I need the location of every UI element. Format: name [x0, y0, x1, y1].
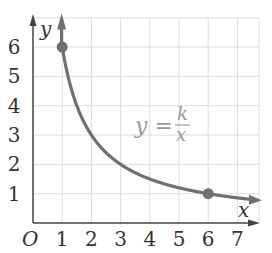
x-tick-label: 7	[231, 227, 244, 251]
x-axis-arrow-icon	[248, 220, 260, 227]
y-axis-label: y	[39, 17, 52, 41]
curve-arrow-right-icon	[249, 195, 262, 205]
y-tick-label: 6	[8, 35, 21, 59]
data-point-marker	[57, 42, 68, 53]
origin-label: O	[22, 227, 38, 251]
hyperbola-chart: 1234567123456 y x O y = k x	[0, 0, 272, 253]
equation-numerator: k	[177, 103, 188, 124]
y-tick-label: 4	[8, 94, 21, 118]
x-tick-label: 1	[56, 227, 69, 251]
y-axis-arrow-icon	[30, 14, 37, 26]
y-tick-label: 2	[8, 152, 21, 176]
y-tick-label: 5	[8, 64, 21, 88]
y-tick-label: 1	[8, 182, 21, 206]
data-point-marker	[203, 188, 214, 199]
x-tick-label: 6	[202, 227, 215, 251]
x-tick-label: 3	[114, 227, 127, 251]
x-tick-label: 4	[143, 227, 156, 251]
x-axis-label: x	[238, 198, 249, 222]
y-tick-label: 3	[8, 123, 21, 147]
hyperbola-curve	[57, 13, 262, 205]
equation-denominator: x	[176, 124, 186, 145]
x-tick-label: 2	[85, 227, 98, 251]
equation-annotation: y = k x	[134, 103, 190, 145]
equation-lhs: y =	[134, 113, 173, 138]
curve-arrow-up-icon	[57, 13, 66, 29]
x-tick-label: 5	[173, 227, 186, 251]
